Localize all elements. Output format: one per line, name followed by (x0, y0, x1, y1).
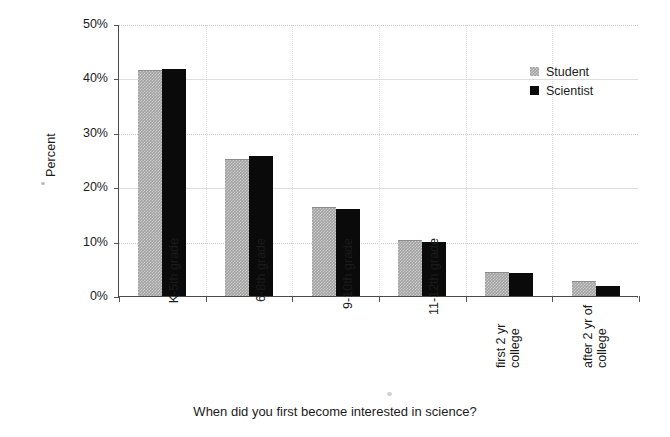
x-tick-mark-2 (292, 296, 293, 302)
x-axis-label-line: 11-12th grade (427, 238, 441, 315)
y-tick-label: 30% (56, 126, 108, 140)
legend-swatch-scientist (530, 86, 539, 95)
y-tick-mark-40 (114, 79, 119, 80)
caption-artifact-speck (387, 392, 392, 396)
y-tick-mark-20 (114, 188, 119, 189)
x-axis-label-5: after 2 yr ofcollege (582, 290, 609, 368)
x-axis-label-line: 9-10th grade (341, 238, 355, 309)
scan-artifact-speck (41, 182, 45, 185)
x-axis-label-line: first 2 yr (494, 324, 508, 368)
x-axis-label-3: 11-12th grade (428, 238, 442, 388)
x-axis-label-line: college (594, 328, 608, 368)
x-tick-mark-4 (466, 296, 467, 302)
bar-student-0 (138, 70, 162, 296)
x-axis-label-2: 9-10th grade (342, 238, 356, 388)
x-axis-label-0: K-5th grade (168, 238, 182, 388)
y-tick-label: 20% (56, 180, 108, 194)
x-axis-label-line: 6-8th grade (254, 238, 268, 302)
gridline-x-4 (466, 25, 467, 296)
bar-student-3 (398, 240, 422, 296)
legend-swatch-student (530, 67, 539, 76)
y-tick-label: 50% (56, 17, 108, 31)
gridline-x-2 (292, 25, 293, 296)
legend-item-scientist: Scientist (530, 81, 593, 100)
legend-item-student: Student (530, 62, 593, 81)
y-tick-label: 40% (56, 71, 108, 85)
y-tick-mark-30 (114, 134, 119, 135)
bar-student-1 (225, 159, 249, 296)
x-tick-mark-1 (206, 296, 207, 302)
y-tick-mark-10 (114, 243, 119, 244)
x-tick-mark-3 (379, 296, 380, 302)
x-axis-label-line: K-5th grade (167, 238, 181, 303)
y-tick-mark-50 (114, 25, 119, 26)
x-tick-mark-0 (119, 296, 120, 302)
chart-caption: When did you first become interested in … (0, 404, 670, 419)
x-axis-label-4: first 2 yrcollege (495, 290, 522, 368)
x-axis-label-1: 6-8th grade (255, 238, 269, 388)
y-tick-label: 0% (56, 289, 108, 303)
y-axis-tick-labels: 50%40%30%20%10%0% (56, 0, 108, 437)
y-tick-label: 10% (56, 235, 108, 249)
legend-label: Scientist (546, 84, 593, 98)
gridline-x-1 (206, 25, 207, 296)
x-tick-mark-5 (552, 296, 553, 302)
x-axis-label-line: college (508, 328, 522, 368)
chart-legend: StudentScientist (530, 62, 593, 100)
chart-figure: Percent 50%40%30%20%10%0% StudentScienti… (0, 0, 670, 437)
x-axis-label-line: after 2 yr of (581, 305, 595, 368)
gridline-x-3 (379, 25, 380, 296)
legend-label: Student (546, 65, 589, 79)
bar-student-2 (312, 207, 336, 296)
x-tick-mark-end (639, 296, 640, 302)
